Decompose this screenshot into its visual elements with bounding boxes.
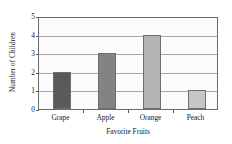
bar-chart-figure: Number of Children 012345 GrapeAppleOran… (0, 0, 232, 144)
y-axis-tick-label: 0 (23, 106, 35, 113)
y-axis-tick-label: 4 (23, 32, 35, 39)
y-axis-tick-label: 2 (23, 69, 35, 76)
x-axis-title: Favorite Fruits (38, 127, 218, 136)
x-axis-tick-labels: GrapeAppleOrangePeach (38, 113, 218, 125)
y-axis-tick-labels: 012345 (22, 0, 35, 144)
bar-apple (98, 53, 116, 109)
y-axis-tick-label: 3 (23, 50, 35, 57)
plot-area (38, 17, 218, 110)
bar-peach (188, 90, 206, 109)
x-axis-tick-label: Peach (187, 113, 205, 123)
y-axis-tick-label: 1 (23, 88, 35, 95)
y-axis-title: Number of Children (6, 14, 20, 110)
y-axis-tick-label: 5 (23, 13, 35, 20)
bar-grape (53, 72, 71, 109)
y-axis-title-label: Number of Children (9, 32, 17, 92)
x-axis-tick-label: Orange (140, 113, 162, 123)
x-axis-tick-label: Apple (96, 113, 114, 123)
bars-layer (39, 18, 217, 109)
bar-orange (143, 35, 161, 109)
x-axis-tick-label: Grape (51, 113, 69, 123)
